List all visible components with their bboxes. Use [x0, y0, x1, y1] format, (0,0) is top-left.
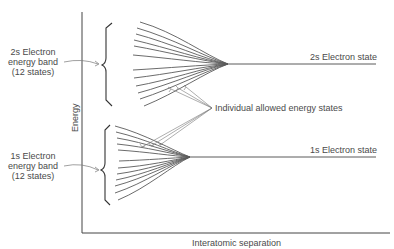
band-label-1s-line1: 1s Electron: [0, 151, 66, 161]
brace-2s: [102, 23, 112, 106]
band-label-2s-line3: (12 states): [0, 67, 66, 77]
band-label-1s: 1s Electron energy band (12 states): [0, 151, 66, 181]
y-axis-label: Energy: [70, 103, 80, 132]
axes: [82, 12, 390, 233]
x-axis-label: Interatomic separation: [192, 238, 281, 248]
state-label-2s: 2s Electron state: [310, 52, 377, 62]
annotation-individual-states: Individual allowed energy states: [215, 103, 343, 113]
band-1s-curves: [115, 126, 376, 200]
band-2s-curves: [133, 22, 376, 106]
band-label-2s-line2: energy band: [0, 57, 66, 67]
brace-1s: [101, 125, 110, 205]
band-label-2s-line1: 2s Electron: [0, 47, 66, 57]
diagram-graphics: [0, 0, 394, 249]
band-label-1s-line2: energy band: [0, 161, 66, 171]
band-label-2s: 2s Electron energy band (12 states): [0, 47, 66, 77]
state-label-1s: 1s Electron state: [310, 145, 377, 155]
energy-band-diagram: 2s Electron energy band (12 states) 1s E…: [0, 0, 394, 249]
annotation-pointers: [140, 85, 212, 147]
band-label-1s-line3: (12 states): [0, 171, 66, 181]
